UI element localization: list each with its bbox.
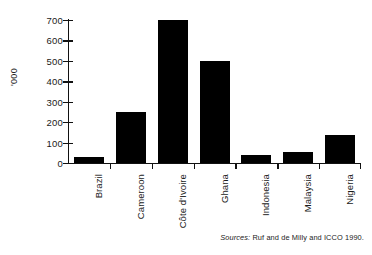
- y-axis-tick-inner: [68, 81, 73, 82]
- bar-chart-figure: '000 0100200300400500600700 Sources: Ruf…: [0, 0, 372, 255]
- y-axis-tick-inner: [68, 102, 73, 103]
- x-axis-category-label: Ghana: [219, 174, 230, 203]
- source-text: Ruf and de Milly and ICCO 1990.: [250, 233, 364, 242]
- x-axis-category-label: Côte d'Ivoire: [177, 174, 188, 228]
- y-axis-tick-inner: [68, 163, 73, 164]
- y-axis-tick-label: 700: [47, 15, 63, 26]
- plot-area: 0100200300400500600700: [68, 20, 361, 163]
- source-note: Sources: Ruf and de Milly and ICCO 1990.: [220, 233, 364, 242]
- bar: [200, 61, 230, 163]
- x-axis-category-label: Nigeria: [344, 174, 355, 205]
- x-axis-category-label: Brazil: [93, 174, 104, 198]
- bar: [158, 20, 188, 163]
- bar: [74, 157, 104, 163]
- x-axis-end-tick: [360, 163, 361, 169]
- y-axis-tick-label: 500: [47, 55, 63, 66]
- x-axis-tick: [152, 163, 153, 169]
- y-axis-tick-label: 300: [47, 96, 63, 107]
- y-axis-tick-inner: [68, 40, 73, 41]
- x-axis-tick: [319, 163, 320, 169]
- x-axis-category-label: Indonesia: [260, 174, 271, 216]
- y-axis-tick-label: 600: [47, 35, 63, 46]
- bar: [283, 152, 313, 163]
- y-axis-tick-label: 100: [47, 137, 63, 148]
- y-axis-tick-inner: [68, 20, 73, 21]
- x-axis-tick: [235, 163, 236, 169]
- y-axis-tick-label: 400: [47, 76, 63, 87]
- source-prefix: Sources:: [220, 233, 250, 242]
- y-axis-label: '000: [9, 55, 19, 99]
- x-axis-tick: [110, 163, 111, 169]
- x-axis-line: [68, 163, 361, 164]
- y-axis-tick-inner: [68, 143, 73, 144]
- x-axis-category-label: Malaysia: [302, 174, 313, 212]
- y-axis-tick-label: 200: [47, 117, 63, 128]
- bar: [325, 135, 355, 163]
- y-axis-tick-inner: [68, 122, 73, 123]
- y-axis-tick-inner: [68, 61, 73, 62]
- x-axis-tick: [277, 163, 278, 169]
- bar: [116, 112, 146, 163]
- x-axis-tick: [194, 163, 195, 169]
- y-axis-tick-label: 0: [58, 158, 63, 169]
- x-axis-category-label: Cameroon: [135, 174, 146, 219]
- bar: [241, 155, 271, 163]
